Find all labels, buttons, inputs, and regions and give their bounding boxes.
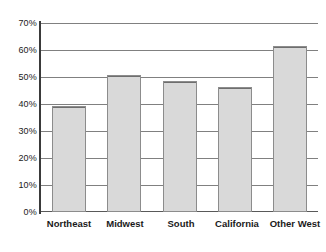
bar-top-edge	[108, 76, 140, 77]
y-axis-tick-labels: 70% 60% 50% 40% 30% 20% 10% 0%	[0, 0, 37, 252]
bar-top-edge	[274, 47, 306, 48]
y-tick-label-20: 20%	[1, 153, 37, 163]
y-tick-label-40: 40%	[1, 99, 37, 109]
y-tick-label-70: 70%	[1, 18, 37, 28]
bar-midwest	[107, 75, 141, 212]
bar-other-west	[273, 46, 307, 212]
x-axis-category-labels: Northeast Midwest South California Other…	[41, 218, 318, 238]
x-label-california: California	[207, 218, 267, 229]
bar-california	[218, 87, 252, 212]
x-label-northeast: Northeast	[41, 218, 97, 229]
bar-top-edge	[219, 88, 251, 89]
y-tick-label-60: 60%	[1, 45, 37, 55]
x-label-south: South	[153, 218, 209, 229]
y-tick-label-50: 50%	[1, 72, 37, 82]
x-label-midwest: Midwest	[97, 218, 153, 229]
x-label-other-west: Other West	[264, 218, 326, 229]
y-tick-label-30: 30%	[1, 126, 37, 136]
bar-top-edge	[53, 107, 85, 108]
bar-south	[163, 81, 197, 212]
gridline-70	[41, 23, 318, 24]
bar-chart: 70% 60% 50% 40% 30% 20% 10% 0% Northeast…	[0, 0, 326, 252]
bar-northeast	[52, 106, 86, 212]
y-tick-label-0: 0%	[1, 207, 37, 217]
y-tick-label-10: 10%	[1, 180, 37, 190]
plot-area	[41, 23, 318, 212]
bar-top-edge	[164, 82, 196, 83]
